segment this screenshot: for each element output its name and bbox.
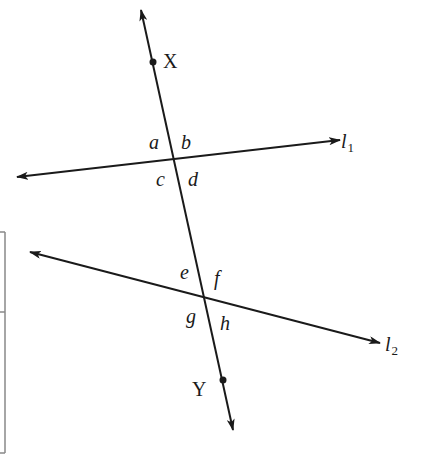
line-l1-label-main: l [341,130,347,152]
point-y-label: Y [192,378,206,400]
point-x-label: X [163,50,178,72]
line-l1-label-sub: 1 [348,140,355,155]
angle-c-label: c [156,168,165,190]
line-l1-label: l1 [341,130,354,155]
side-frame [0,232,5,453]
angle-f-label: f [214,267,222,290]
line-l2 [30,252,380,343]
point-y-dot [220,377,227,384]
angle-g-label: g [186,305,196,328]
transversal-diagram: X Y l1 l2 a b c d e f g h [0,0,422,461]
line-l2-label: l2 [385,333,398,358]
line-l2-label-main: l [385,333,391,355]
transversal-xy [141,10,233,430]
angle-e-label: e [180,261,189,283]
angle-b-label: b [181,131,191,153]
angle-a-label: a [149,131,159,153]
angle-d-label: d [188,168,199,190]
point-x-dot [150,59,157,66]
line-l1 [17,140,340,177]
line-l2-label-sub: 2 [392,343,399,358]
angle-h-label: h [220,312,230,334]
